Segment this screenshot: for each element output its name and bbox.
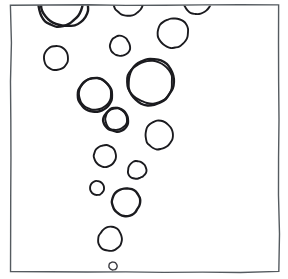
canvas-background: [0, 0, 288, 279]
figure-svg: [0, 0, 288, 279]
drawing-canvas: [0, 0, 288, 279]
